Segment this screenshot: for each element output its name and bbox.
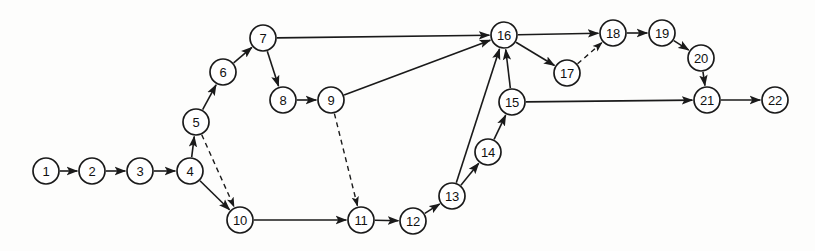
edge-20-to-21 <box>703 72 705 86</box>
node-3[interactable]: 3 <box>127 158 153 184</box>
edge-13-to-14 <box>461 163 479 185</box>
node-17[interactable]: 17 <box>554 60 580 86</box>
edge-6-to-7 <box>234 47 252 62</box>
node-label-21: 21 <box>700 93 714 108</box>
node-11[interactable]: 11 <box>348 207 374 233</box>
graph-canvas: 12345678910111213141516171819202122 <box>0 0 815 251</box>
node-15[interactable]: 15 <box>499 89 525 115</box>
node-13[interactable]: 13 <box>439 183 465 209</box>
node-14[interactable]: 14 <box>475 139 501 165</box>
edge-7-to-8 <box>267 51 278 86</box>
node-label-19: 19 <box>655 26 669 41</box>
node-18[interactable]: 18 <box>600 20 626 46</box>
node-1[interactable]: 1 <box>33 158 59 184</box>
edge-7-to-16 <box>277 35 489 38</box>
node-8[interactable]: 8 <box>270 87 296 113</box>
node-label-2: 2 <box>89 164 96 179</box>
node-label-13: 13 <box>445 189 459 204</box>
edge-16-to-18 <box>518 33 598 34</box>
edges-layer <box>60 33 760 221</box>
node-label-17: 17 <box>560 66 574 81</box>
node-label-8: 8 <box>280 93 287 108</box>
node-label-16: 16 <box>497 28 511 43</box>
node-label-10: 10 <box>233 213 247 228</box>
node-label-20: 20 <box>694 51 708 66</box>
node-6[interactable]: 6 <box>210 59 236 85</box>
node-2[interactable]: 2 <box>79 158 105 184</box>
node-label-6: 6 <box>220 65 227 80</box>
nodes-layer: 12345678910111213141516171819202122 <box>33 20 788 234</box>
node-21[interactable]: 21 <box>694 87 720 113</box>
node-label-22: 22 <box>768 93 782 108</box>
edge-9-to-16 <box>344 40 490 95</box>
node-7[interactable]: 7 <box>250 25 276 51</box>
node-22[interactable]: 22 <box>762 87 788 113</box>
node-label-1: 1 <box>43 164 50 179</box>
node-12[interactable]: 12 <box>400 208 426 234</box>
node-label-11: 11 <box>355 213 368 228</box>
node-20[interactable]: 20 <box>688 45 714 71</box>
edge-4-to-10 <box>200 181 230 210</box>
edge-14-to-15 <box>494 115 506 139</box>
node-19[interactable]: 19 <box>649 20 675 46</box>
node-4[interactable]: 4 <box>177 158 203 184</box>
edge-19-to-20 <box>674 41 689 51</box>
edge-17-to-18 <box>578 43 602 64</box>
edge-15-to-21 <box>526 100 692 102</box>
edge-15-to-16 <box>506 50 511 89</box>
node-16[interactable]: 16 <box>491 22 517 48</box>
edge-5-to-10 <box>202 135 234 207</box>
edge-4-to-5 <box>192 136 195 157</box>
node-label-7: 7 <box>260 31 267 46</box>
edge-16-to-17 <box>516 42 555 65</box>
node-label-4: 4 <box>187 164 194 179</box>
node-10[interactable]: 10 <box>227 207 253 233</box>
node-label-15: 15 <box>505 95 519 110</box>
node-label-12: 12 <box>406 214 420 229</box>
node-label-5: 5 <box>193 115 200 130</box>
node-label-9: 9 <box>328 93 335 108</box>
node-label-14: 14 <box>481 145 495 160</box>
node-label-3: 3 <box>137 164 144 179</box>
edge-5-to-6 <box>203 85 216 110</box>
network-diagram: 12345678910111213141516171819202122 <box>0 0 815 251</box>
node-5[interactable]: 5 <box>183 109 209 135</box>
edge-12-to-13 <box>425 204 440 214</box>
node-9[interactable]: 9 <box>318 87 344 113</box>
node-label-18: 18 <box>606 26 620 41</box>
edge-9-to-11 <box>334 114 357 206</box>
